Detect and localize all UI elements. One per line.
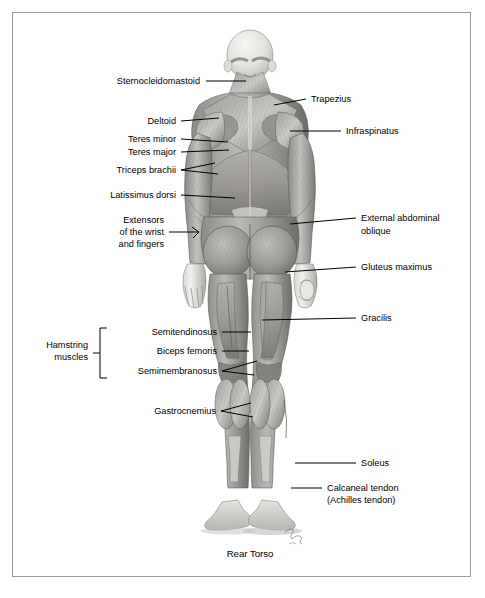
left-leg [205, 274, 252, 530]
anatomy-figure-plate: SternocleidomastoidDeltoidTeres minorTer… [0, 0, 485, 598]
label-calcaneal-tendon-2: (Achilles tendon) [327, 495, 395, 505]
label-external-abdominal-oblique-2: oblique [361, 226, 391, 236]
human-figure-posterior [183, 30, 317, 544]
figure-caption: Rear Torso [227, 548, 274, 559]
label-semitendinosus: Semitendinosus [152, 327, 218, 337]
label-trapezius: Trapezius [311, 94, 351, 104]
hamstring-bracket [100, 328, 107, 378]
label-extensors-wrist-fingers-3: and fingers [119, 239, 165, 249]
label-sternocleidomastoid: Sternocleidomastoid [117, 76, 200, 86]
leader-extensors-wrist-fingers-2 [169, 227, 199, 238]
label-teres-minor: Teres minor [128, 134, 176, 144]
labels-right: TrapeziusInfraspinatusExternal abdominal… [311, 94, 440, 505]
label-latissimus-dorsi: Latissimus dorsi [110, 190, 176, 200]
head [224, 30, 276, 80]
label-gracilis: Gracilis [361, 313, 392, 323]
label-soleus: Soleus [361, 458, 389, 468]
hamstring-bracket-group: Hamstring muscles [46, 328, 107, 378]
label-triceps-brachii: Triceps brachii [117, 165, 176, 175]
label-external-abdominal-oblique-1: External abdominal [361, 213, 440, 223]
label-biceps-femoris: Biceps femoris [157, 346, 218, 356]
label-deltoid: Deltoid [147, 116, 176, 126]
right-leg [248, 274, 295, 530]
label-infraspinatus: Infraspinatus [346, 126, 399, 136]
gluteal-region [201, 217, 299, 280]
rear-torso-diagram: SternocleidomastoidDeltoidTeres minorTer… [0, 0, 485, 598]
label-extensors-wrist-fingers-1: Extensors [123, 215, 164, 225]
label-gastrocnemius: Gastrocnemius [154, 406, 216, 416]
label-semimembranosus: Semimembranosus [138, 366, 218, 376]
hamstring-muscles-label-line2: muscles [54, 352, 88, 362]
label-calcaneal-tendon-1: Calcaneal tendon [327, 483, 399, 493]
label-gluteus-maximus: Gluteus maximus [361, 262, 432, 272]
label-extensors-wrist-fingers-2: of the wrist [120, 227, 165, 237]
hamstring-muscles-label-line1: Hamstring [46, 340, 88, 350]
label-teres-major: Teres major [128, 147, 176, 157]
